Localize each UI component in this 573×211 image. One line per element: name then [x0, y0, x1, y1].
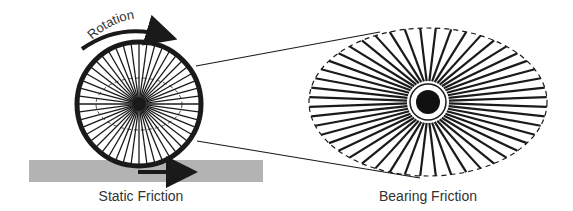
bearing-hub — [416, 90, 440, 114]
wheel-hub — [133, 98, 145, 110]
friction-diagram: Rotation Static Friction Bearing Frictio… — [0, 0, 573, 211]
wheel-icon — [77, 42, 201, 166]
bearing-zoom-view — [309, 28, 547, 176]
static-friction-label: Static Friction — [99, 188, 184, 204]
bearing-friction-label: Bearing Friction — [379, 188, 477, 204]
